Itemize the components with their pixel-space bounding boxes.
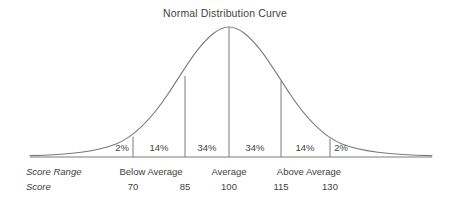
percent-label-band-6: 2% [334, 142, 348, 153]
normal-distribution-plot [0, 0, 450, 211]
percent-label-band-4: 34% [245, 142, 264, 153]
chart-canvas: Normal Distribution Curve 2% 14% 34% 34%… [0, 0, 450, 211]
range-label-below-average: Below Average [119, 166, 182, 177]
row-key-score: Score [26, 181, 51, 192]
score-value-70: 70 [128, 181, 139, 192]
bell-curve-path [30, 27, 432, 156]
percent-label-band-2: 14% [149, 142, 168, 153]
range-label-above-average: Above Average [277, 166, 341, 177]
score-value-130: 130 [322, 181, 338, 192]
percent-label-band-1: 2% [115, 142, 129, 153]
percent-label-band-3: 34% [197, 142, 216, 153]
score-value-85: 85 [180, 181, 191, 192]
range-label-average: Average [211, 166, 246, 177]
row-key-score-range: Score Range [26, 166, 81, 177]
score-value-100: 100 [221, 181, 237, 192]
percent-label-band-5: 14% [295, 142, 314, 153]
score-value-115: 115 [273, 181, 288, 192]
